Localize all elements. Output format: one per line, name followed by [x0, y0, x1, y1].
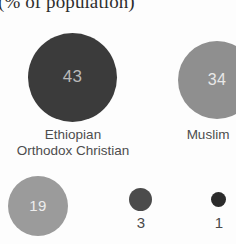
bubble-value-protestant: 19	[29, 197, 47, 214]
bubble-value-traditional: 3	[126, 214, 156, 231]
bubble-value-other: 1	[204, 214, 234, 231]
bubble-label-muslim: Muslim	[172, 127, 236, 143]
bubble-other[interactable]	[211, 192, 226, 207]
bubble-protestant[interactable]: 19	[8, 176, 68, 236]
bubble-muslim[interactable]: 34	[178, 41, 236, 119]
bubble-chart: (% of population) 43 Ethiopian Orthodox …	[0, 0, 236, 244]
bubble-value-ethiopian-orthodox-christian: 43	[63, 67, 83, 87]
bubble-label-ethiopian-orthodox-christian: Ethiopian Orthodox Christian	[0, 127, 146, 159]
chart-title: (% of population)	[0, 0, 135, 13]
bubble-ethiopian-orthodox-christian[interactable]: 43	[28, 33, 117, 122]
bubble-traditional[interactable]	[129, 188, 152, 211]
bubble-value-muslim: 34	[208, 71, 227, 89]
